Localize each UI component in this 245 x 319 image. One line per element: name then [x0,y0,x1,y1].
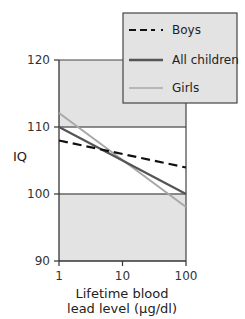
x-tick-1: 1 [55,269,63,283]
x-axis-title-line1: Lifetime blood [76,286,169,301]
chart: 120 110 100 90 1 10 100 IQ Lifetime bloo… [0,0,245,319]
series-all-children [59,127,186,194]
x-axis-title-line2: lead level (µg/dl) [67,301,177,316]
legend-label-girls: Girls [172,81,199,95]
boys-dot-icon [161,29,163,31]
y-tick-90: 90 [35,254,50,268]
series-boys [59,141,186,168]
x-tick-100: 100 [175,269,198,283]
legend: Boys All children Girls [123,13,239,103]
y-tick-110: 110 [27,120,50,134]
x-tick-10: 10 [115,269,130,283]
legend-label-all-children: All children [172,53,239,67]
legend-label-boys: Boys [172,23,201,37]
x-ticks [59,261,186,266]
y-axis-title: IQ [13,149,27,164]
lower-band [59,194,186,261]
y-tick-100: 100 [27,187,50,201]
y-tick-120: 120 [27,53,50,67]
y-ticks [54,60,59,261]
